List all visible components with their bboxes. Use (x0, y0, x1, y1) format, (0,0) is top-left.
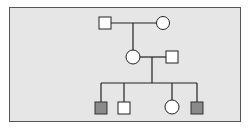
female-unaffected-III-3 (165, 100, 179, 114)
male-affected-III-4 (191, 102, 203, 114)
female-unaffected-I-2 (157, 17, 170, 30)
male-unaffected-III-2 (118, 102, 130, 114)
pedigree-diagram (0, 0, 249, 129)
relationship-lines (101, 23, 197, 102)
female-unaffected-II-1 (126, 50, 140, 64)
male-affected-III-1 (95, 102, 107, 114)
male-unaffected-II-2 (166, 51, 178, 63)
male-unaffected-I-1 (99, 17, 111, 29)
